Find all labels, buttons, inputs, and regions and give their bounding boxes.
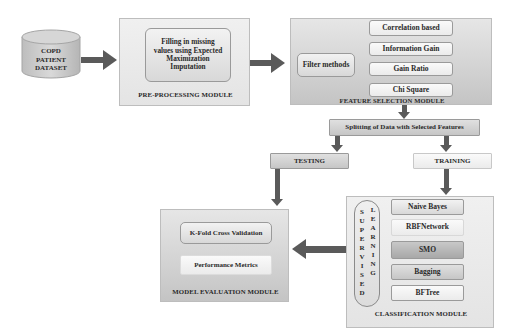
dataset-label-line: COPD xyxy=(41,47,61,56)
classifier-bftree: BFTree xyxy=(391,285,464,301)
step-text: Imputation xyxy=(170,63,205,71)
letter: L xyxy=(371,206,376,215)
letter: S xyxy=(360,208,364,217)
method-correlation: Correlation based xyxy=(369,20,453,36)
letter: V xyxy=(359,253,364,262)
letter: P xyxy=(360,226,364,235)
eval-performance-metrics: Performance Metrics xyxy=(180,255,272,275)
arrow-head-icon xyxy=(440,145,452,152)
letter: E xyxy=(360,280,365,289)
arrow-dataset-to-preprocessing xyxy=(81,57,104,63)
arrow-preprocessing-to-feature xyxy=(250,60,272,66)
letter: I xyxy=(372,251,375,260)
classifier-naive-bayes: Naive Bayes xyxy=(391,199,464,215)
letter: D xyxy=(359,289,364,298)
learning-vertical-text: L E A R N I N G xyxy=(368,206,378,278)
testing-box: TESTING xyxy=(270,153,349,169)
supervised-vertical-text: S U P E R V I S E D xyxy=(357,208,367,298)
letter: S xyxy=(360,271,364,280)
arrow-classification-to-evaluation xyxy=(306,246,346,253)
classifier-smo: SMO xyxy=(391,241,464,259)
arrow-head-icon xyxy=(103,50,117,70)
evaluation-title: MODEL EVALUATION MODULE xyxy=(161,288,290,295)
arrow-training-to-classification xyxy=(444,169,449,189)
letter: E xyxy=(360,235,365,244)
arrow-head-icon xyxy=(292,239,306,259)
letter: N xyxy=(370,260,375,269)
dataset-cylinder: COPD PATIENT DATASET xyxy=(21,29,81,79)
arrow-head-icon xyxy=(271,53,285,73)
method-gain-ratio: Gain Ratio xyxy=(369,62,453,76)
classification-module: S U P E R V I S E D L E A R N I N G Naiv… xyxy=(346,196,494,328)
dataset-label-line: DATASET xyxy=(35,64,67,73)
filter-methods-box: Filter methods xyxy=(297,53,355,77)
letter: A xyxy=(370,224,375,233)
letter: E xyxy=(371,215,376,224)
dataset-label-line: PATIENT xyxy=(36,56,66,65)
classifier-bagging: Bagging xyxy=(391,264,464,280)
letter: I xyxy=(361,262,364,271)
model-evaluation-module: K-Fold Cross Validation Performance Metr… xyxy=(160,209,289,302)
splitting-box: Splitting of Data with Selected Features xyxy=(329,119,480,136)
arrow-head-icon xyxy=(271,199,283,206)
arrow-head-icon xyxy=(398,112,410,119)
preprocessing-title: PRE-PROCESSING MODULE xyxy=(120,91,251,98)
arrow-head-icon xyxy=(331,145,343,152)
letter: N xyxy=(370,242,375,251)
em-imputation-step: Filling in missing values using Expected… xyxy=(145,28,231,82)
arrow-head-icon xyxy=(440,188,452,195)
method-chi-square: Chi Square xyxy=(369,83,453,97)
letter: R xyxy=(370,233,375,242)
feature-selection-module: Filter methods Correlation based Informa… xyxy=(290,18,492,105)
feature-selection-title: FEATURE SELECTION MODULE xyxy=(291,97,493,104)
letter: U xyxy=(359,217,364,226)
letter: G xyxy=(370,269,375,278)
eval-kfold: K-Fold Cross Validation xyxy=(180,222,272,244)
training-box: TRAINING xyxy=(413,153,492,169)
letter: R xyxy=(359,244,364,253)
classifier-rbfnetwork: RBFNetwork xyxy=(391,219,464,236)
supervised-learning-pill: S U P E R V I S E D L E A R N I N G xyxy=(354,200,380,307)
preprocessing-module: Filling in missing values using Expected… xyxy=(119,18,250,106)
method-information-gain: Information Gain xyxy=(369,42,453,56)
arrow-testing-to-evaluation xyxy=(275,169,280,200)
classification-title: CLASSIFICATION MODULE xyxy=(347,310,495,317)
